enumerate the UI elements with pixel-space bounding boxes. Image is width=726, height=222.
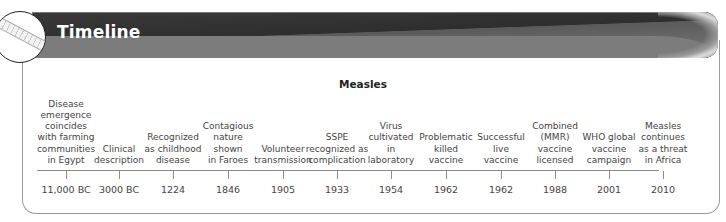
event-year: 2010 [628,184,698,195]
event-label-line: Virus [351,121,431,132]
timeline-heading: Measles [0,78,726,90]
event-label-line: coincides [26,121,106,132]
event-label: Measlescontinuesas a threatin Africa [623,121,703,166]
timeline-tick [555,171,556,179]
timeline-tick [66,171,67,179]
event-label-line: in Africa [623,155,703,166]
event-label-line: Measles [623,121,703,132]
timeline-tick [228,171,229,179]
event-label-line: nature [188,132,268,143]
event-label-line: Contagious [188,121,268,132]
timeline-tick [283,171,284,179]
timeline-tick [446,171,447,179]
timeline-tick [609,171,610,179]
event-label-line: Disease [26,99,106,110]
ruler-graphic [0,15,46,54]
timeline-tick [663,171,664,179]
timeline-tick [337,171,338,179]
timeline-axis [37,170,659,171]
page-title: Timeline [57,22,141,42]
event-labels: Diseaseemergencecoincideswith farmingcom… [22,90,718,166]
timeline-tick [501,171,502,179]
event-label-line: as a threat [623,144,703,155]
timeline-tick [391,171,392,179]
event-label-line: emergence [26,110,106,121]
event-label-line: continues [623,132,703,143]
event-label-line: with farming [26,132,106,143]
timeline-tick [173,171,174,179]
timeline-tick [119,171,120,179]
event-label-line: Combined [515,121,595,132]
